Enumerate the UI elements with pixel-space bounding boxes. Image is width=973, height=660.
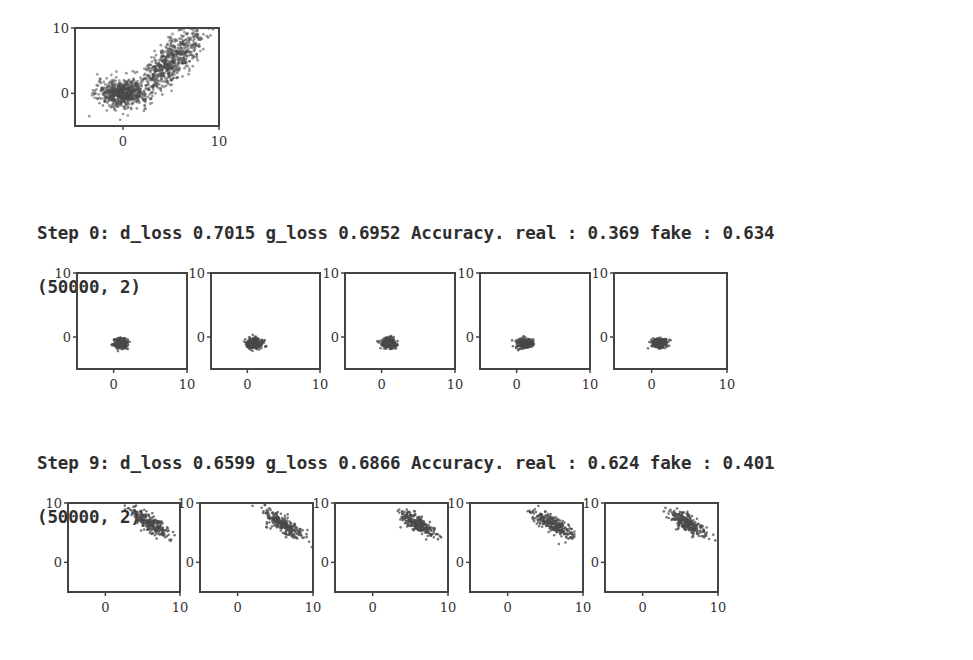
x-tick-label: 0: [639, 600, 647, 615]
x-tick-label: 10: [710, 600, 727, 615]
scatter-canvas: 001010: [0, 0, 973, 660]
y-tick-label: 10: [582, 496, 599, 511]
axes-frame: [605, 503, 718, 592]
y-tick-label: 0: [591, 555, 599, 570]
point-cluster: [660, 500, 719, 542]
